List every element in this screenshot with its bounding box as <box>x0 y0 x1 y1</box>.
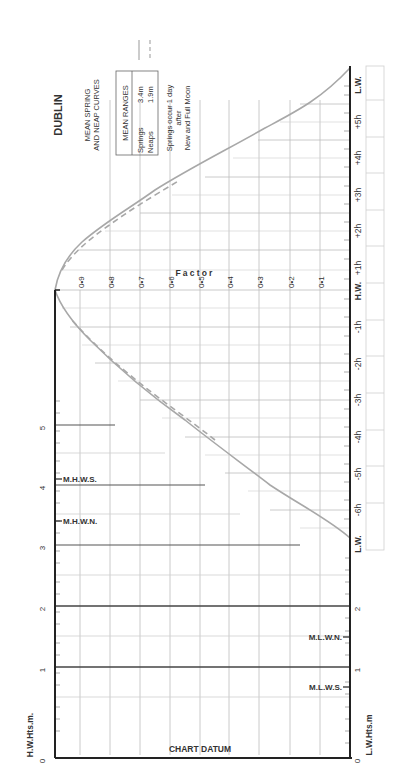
note-line-2: after <box>174 110 183 126</box>
time-label-minus2h: -2h <box>353 358 363 371</box>
time-label-plus1h: +1h <box>353 261 363 276</box>
lw-tick-2: 2 <box>353 606 362 611</box>
factor-0-6: 0•6 <box>167 276 176 288</box>
factor-0-3: 0•3 <box>256 276 265 288</box>
mhwn-label: M.H.W.N. <box>63 517 97 526</box>
neap-curve <box>62 180 215 440</box>
neaps-label: Neaps <box>146 131 155 153</box>
time-label-minus1h: -1h <box>353 321 363 334</box>
time-label-lw-top: L.W. <box>353 76 363 93</box>
half-hour-grid <box>62 122 350 528</box>
note-line-3: New and Full Moon <box>183 86 192 151</box>
time-label-minus4h: -4h <box>353 431 363 444</box>
time-table-strip <box>366 66 384 550</box>
factor-title: Factor <box>175 268 214 278</box>
subtitle-line-2: AND NEAP CURVES <box>92 79 101 150</box>
time-label-plus5h: +5h <box>353 115 363 130</box>
hw-tick-3: 3 <box>38 545 47 550</box>
lw-height-labels: 0 1 2 L.W.Hts.m <box>353 606 374 763</box>
hw-tick-0: 0 <box>38 758 47 763</box>
time-label-plus3h: +3h <box>353 188 363 203</box>
time-label-plus4h: +4h <box>353 151 363 166</box>
springs-value: 3.4m <box>136 86 145 103</box>
chart-datum-label: CHART DATUM <box>169 744 231 754</box>
hour-grid <box>55 104 350 510</box>
note-line-1: Springs occur 1 day <box>165 85 174 152</box>
lw-heights-axis-title: L.W.Hts.m <box>364 714 374 756</box>
hw-tick-5: 5 <box>38 425 47 430</box>
hw-height-labels: 0 1 2 3 4 5 H.W.Hts.m. <box>25 425 47 763</box>
tidal-curve-diagram: L.W. +5h +4h +3h +2h +1h H.W. -1h -2h -3… <box>0 0 403 770</box>
lw-tick-1: 1 <box>353 667 362 672</box>
factor-grid <box>80 100 320 755</box>
time-labels: L.W. +5h +4h +3h +2h +1h H.W. -1h -2h -3… <box>353 76 363 552</box>
time-label-plus2h: +2h <box>353 224 363 239</box>
factor-0-5: 0•5 <box>197 276 206 288</box>
factor-0-8: 0•8 <box>107 276 116 288</box>
subtitle-line-1: MEAN SPRING <box>83 89 92 142</box>
time-label-hw: H.W. <box>353 282 363 300</box>
height-grid <box>55 425 350 697</box>
time-label-minus6h: -6h <box>353 504 363 517</box>
mhws-label: M.H.W.S. <box>63 475 97 484</box>
lw-tick-0: 0 <box>353 758 362 763</box>
hw-heights-axis-title: H.W.Hts.m. <box>25 713 35 757</box>
factor-0-1: 0•1 <box>317 276 326 288</box>
time-label-minus5h: -5h <box>353 468 363 481</box>
mlwn-label: M.L.W.N. <box>309 633 342 642</box>
level-markers: M.H.W.S. M.H.W.N. M.L.W.N. M.L.W.S. CHAR… <box>55 475 350 754</box>
factor-labels: Factor 0•9 0•8 0•7 0•6 0•5 0•4 0•3 0•2 0… <box>77 268 326 288</box>
hw-tick-4: 4 <box>38 485 47 490</box>
springs-label: Springs <box>136 127 145 153</box>
hw-tick-2: 2 <box>38 606 47 611</box>
port-name: DUBLIN <box>52 94 64 136</box>
hw-tick-1: 1 <box>38 667 47 672</box>
factor-0-9: 0•9 <box>77 276 86 288</box>
factor-0-7: 0•7 <box>137 276 146 288</box>
time-label-lw-bottom: L.W. <box>353 535 363 552</box>
title-block: DUBLIN MEAN SPRING AND NEAP CURVES MEAN … <box>52 40 192 155</box>
neaps-value: 1.9m <box>146 86 155 103</box>
mean-ranges-header: MEAN RANGES <box>121 85 130 140</box>
time-label-minus3h: -3h <box>353 394 363 407</box>
factor-0-4: 0•4 <box>226 276 235 288</box>
mlws-label: M.L.W.S. <box>309 683 342 692</box>
factor-0-2: 0•2 <box>287 276 296 288</box>
